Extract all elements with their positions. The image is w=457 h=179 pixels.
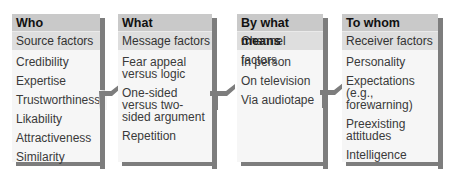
factor-item: Personality xyxy=(342,56,438,68)
factor-item: Preexisting attitudes xyxy=(342,118,416,142)
factor-item: Intelligence xyxy=(342,149,438,161)
card-by-what-means: By what means Channel factors In person … xyxy=(237,14,323,162)
panel-what: What Message factors Fear appeal versus … xyxy=(118,14,218,169)
factor-item: Expectations (e.g., forewarning) xyxy=(342,75,438,111)
column-header: What xyxy=(118,14,212,31)
column-subheader: Receiver factors xyxy=(342,31,438,50)
factor-item: On television xyxy=(237,75,323,87)
factor-item: Similarity xyxy=(12,151,100,163)
panel-who: Who Source factors Credibility Expertise… xyxy=(12,14,107,169)
factor-item: Fear appeal versus logic xyxy=(118,56,202,80)
card-who: Who Source factors Credibility Expertise… xyxy=(12,14,100,162)
factor-item: Likability xyxy=(12,113,100,125)
panel-shadow xyxy=(122,162,217,166)
panel-shadow xyxy=(346,162,443,166)
factor-item: Expertise xyxy=(12,75,100,87)
panel-shadow xyxy=(241,162,328,166)
factor-item: Credibility xyxy=(12,56,100,68)
column-header: By what means xyxy=(237,14,323,31)
factor-item: One-sided versus two-sided argument xyxy=(118,87,210,123)
panel-shadow xyxy=(438,18,443,169)
card-what: What Message factors Fear appeal versus … xyxy=(118,14,212,162)
panel-to-whom: To whom Receiver factors Personality Exp… xyxy=(342,14,445,169)
column-subheader: Message factors xyxy=(118,31,212,50)
factor-item: Attractiveness xyxy=(12,132,100,144)
column-header: To whom xyxy=(342,14,438,31)
factor-item: In person xyxy=(237,56,323,68)
panel-by-what-means: By what means Channel factors In person … xyxy=(237,14,329,169)
column-header: Who xyxy=(12,14,100,31)
card-to-whom: To whom Receiver factors Personality Exp… xyxy=(342,14,438,162)
flow-arrow-icon xyxy=(210,80,240,110)
factor-item: Trustworthiness xyxy=(12,94,100,106)
column-subheader: Channel factors xyxy=(237,31,323,50)
factor-item: Repetition xyxy=(118,130,212,142)
factor-item: Via audiotape xyxy=(237,94,323,106)
column-subheader: Source factors xyxy=(12,31,100,50)
